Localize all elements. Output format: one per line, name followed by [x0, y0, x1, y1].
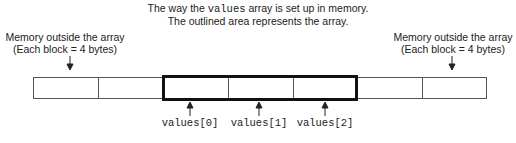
arrow-down-icon: [449, 56, 455, 70]
element-label-0: values[0]: [150, 117, 230, 129]
arrow-up-icon: [187, 102, 193, 116]
element-label-2: values[2]: [285, 117, 365, 129]
arrow-up-icon: [256, 102, 262, 116]
arrow-down-icon: [67, 56, 73, 70]
arrow-up-icon: [322, 102, 328, 116]
